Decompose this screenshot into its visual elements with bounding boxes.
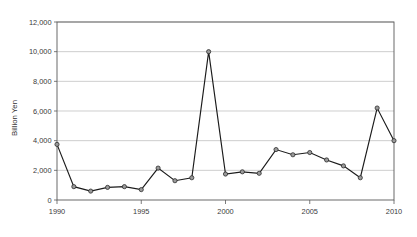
chart-canvas: 02,0004,0006,0008,00010,00012,000 199019… — [0, 0, 417, 237]
data-point-marker — [240, 170, 244, 174]
data-point-marker — [55, 142, 59, 146]
x-tick-label: 1995 — [133, 207, 149, 216]
y-tick-label: 4,000 — [33, 136, 52, 145]
x-tick-label: 2010 — [386, 207, 402, 216]
y-tick-label: 8,000 — [33, 77, 52, 86]
data-point-marker — [308, 150, 312, 154]
y-tick-label: 12,000 — [29, 18, 52, 27]
data-point-marker — [207, 50, 211, 54]
data-point-marker — [190, 176, 194, 180]
data-point-marker — [223, 172, 227, 176]
y-axis-title: Billion Yen — [10, 100, 19, 136]
y-tick-label: 10,000 — [29, 47, 52, 56]
data-point-marker — [392, 139, 396, 143]
y-tick-label: 2,000 — [33, 166, 52, 175]
data-point-marker — [257, 171, 261, 175]
y-tick-label: 0 — [47, 196, 51, 205]
data-point-marker — [358, 176, 362, 180]
data-point-marker — [291, 153, 295, 157]
data-point-marker — [122, 185, 126, 189]
data-point-marker — [173, 179, 177, 183]
data-point-marker — [274, 147, 278, 151]
data-point-marker — [89, 189, 93, 193]
line-chart: 02,0004,0006,0008,00010,00012,000 199019… — [0, 0, 417, 237]
plot-background — [0, 0, 417, 237]
data-point-marker — [139, 188, 143, 192]
x-tick-label: 2000 — [217, 207, 233, 216]
x-tick-label: 2005 — [302, 207, 318, 216]
data-point-marker — [105, 185, 109, 189]
y-tick-label: 6,000 — [33, 107, 52, 116]
data-point-marker — [341, 164, 345, 168]
data-point-marker — [325, 158, 329, 162]
svg-text:Billion Yen: Billion Yen — [10, 100, 19, 136]
data-point-marker — [72, 185, 76, 189]
data-point-marker — [156, 166, 160, 170]
data-point-marker — [375, 106, 379, 110]
x-tick-label: 1990 — [49, 207, 65, 216]
